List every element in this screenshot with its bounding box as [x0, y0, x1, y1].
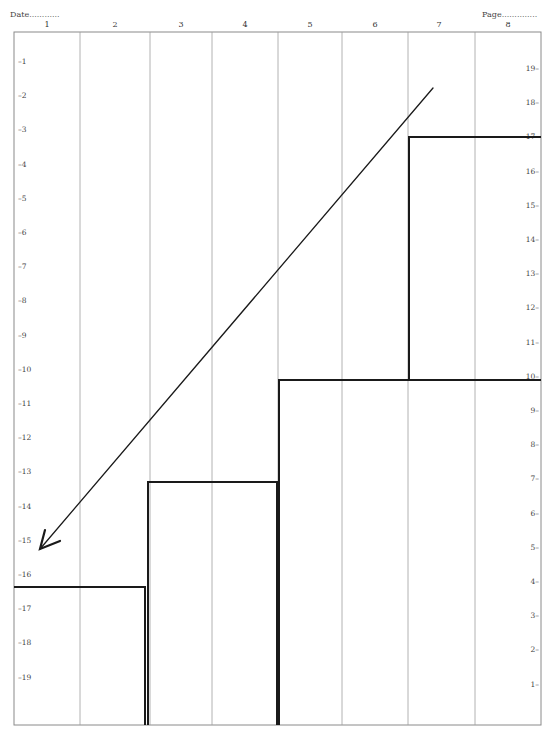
arrow-icon	[0, 0, 551, 736]
